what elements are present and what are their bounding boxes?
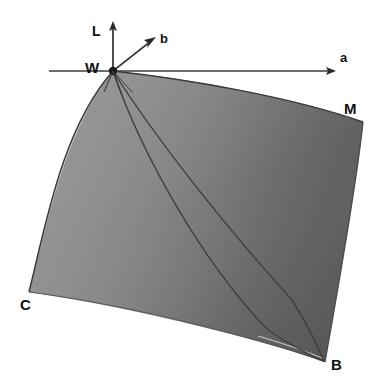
vertex-label-magenta: M bbox=[344, 101, 357, 116]
gamut-surface bbox=[0, 0, 381, 392]
axis-label-L: L bbox=[92, 24, 101, 38]
vertex-label-blue: B bbox=[331, 357, 342, 372]
axis-b bbox=[113, 37, 156, 71]
arrow-head-icon bbox=[144, 37, 156, 48]
vertex-label-white: W bbox=[85, 60, 99, 75]
axis-label-a: a bbox=[340, 51, 347, 64]
vertex-label-cyan: C bbox=[20, 297, 31, 312]
gamut-diagram: L b a W M C B bbox=[0, 0, 381, 392]
gamut-svg bbox=[0, 0, 381, 392]
axis-L bbox=[109, 21, 117, 71]
axis-label-b: b bbox=[160, 32, 168, 45]
